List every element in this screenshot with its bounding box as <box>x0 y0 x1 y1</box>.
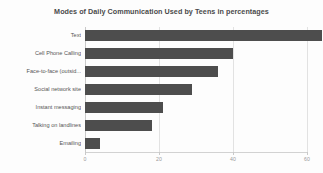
bar <box>85 138 100 149</box>
bar-row <box>85 138 307 149</box>
bar <box>85 48 233 59</box>
bar-row <box>85 48 307 59</box>
x-axis-tick <box>159 152 160 155</box>
bar-row <box>85 30 307 41</box>
x-axis-tick-label: 20 <box>147 156 171 162</box>
y-axis-label: Emailing <box>1 138 81 149</box>
y-axis-label: Social network site <box>1 84 81 95</box>
bar <box>85 66 218 77</box>
bar <box>85 120 152 131</box>
x-axis-tick <box>85 152 86 155</box>
bar <box>85 102 163 113</box>
chart-title: Modes of Daily Communication Used by Tee… <box>0 7 323 16</box>
y-axis-category-labels: TextCell Phone CallingFace-to-face (outs… <box>0 27 83 152</box>
plot-area <box>85 27 307 152</box>
x-axis-tick-label: 0 <box>73 156 97 162</box>
x-axis-tick <box>307 152 308 155</box>
x-axis-tick <box>233 152 234 155</box>
y-axis-label: Talking on landlines <box>1 120 81 131</box>
bar-row <box>85 84 307 95</box>
y-axis-label: Text <box>1 30 81 41</box>
bar <box>85 30 322 41</box>
y-axis-label: Cell Phone Calling <box>1 48 81 59</box>
y-axis-label: Instant messaging <box>1 102 81 113</box>
bar <box>85 84 192 95</box>
bar-chart: Modes of Daily Communication Used by Tee… <box>0 0 323 173</box>
bar-row <box>85 102 307 113</box>
gridline <box>307 27 308 152</box>
y-axis-label: Face-to-face (outsid... <box>1 66 81 77</box>
bar-row <box>85 120 307 131</box>
bar-row <box>85 66 307 77</box>
x-axis-tick-label: 60 <box>295 156 319 162</box>
x-axis-line <box>85 152 307 153</box>
x-axis-tick-label: 40 <box>221 156 245 162</box>
